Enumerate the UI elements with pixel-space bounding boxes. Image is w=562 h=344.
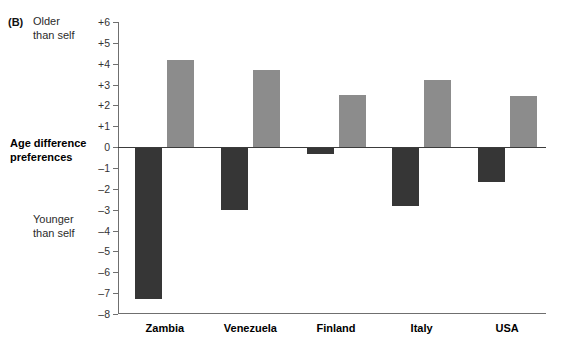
y-tick-label: +5 bbox=[98, 37, 110, 49]
bar-venezuela-older bbox=[253, 70, 280, 147]
y-tick-mark bbox=[113, 22, 118, 23]
y-tick-label: –8 bbox=[98, 308, 110, 320]
x-axis-line bbox=[118, 313, 546, 314]
y-tick-label: –7 bbox=[98, 287, 110, 299]
younger-than-self-note: Younger than self bbox=[33, 212, 75, 240]
y-tick-mark bbox=[113, 126, 118, 127]
y-tick-label: –6 bbox=[98, 266, 110, 278]
y-tick-label: +6 bbox=[98, 16, 110, 28]
category-label-finland: Finland bbox=[316, 322, 355, 334]
bar-venezuela-younger bbox=[221, 147, 248, 210]
bar-zambia-younger bbox=[135, 147, 162, 299]
category-label-zambia: Zambia bbox=[146, 322, 185, 334]
category-label-usa: USA bbox=[496, 322, 519, 334]
y-tick-mark bbox=[113, 189, 118, 190]
y-tick-label: 0 bbox=[104, 141, 110, 153]
zero-baseline bbox=[118, 147, 546, 148]
y-tick-mark bbox=[113, 231, 118, 232]
y-tick-mark bbox=[113, 105, 118, 106]
y-tick-mark bbox=[113, 293, 118, 294]
y-tick-label: –3 bbox=[98, 204, 110, 216]
y-tick-label: +3 bbox=[98, 79, 110, 91]
y-tick-label: +1 bbox=[98, 120, 110, 132]
y-axis-title: Age difference preferences bbox=[10, 136, 86, 164]
y-tick-mark bbox=[113, 64, 118, 65]
y-tick-label: –2 bbox=[98, 183, 110, 195]
bar-italy-younger bbox=[392, 147, 419, 205]
figure-panel-b: (B) Older than self Age difference prefe… bbox=[0, 0, 562, 344]
bar-usa-older bbox=[510, 96, 537, 147]
category-label-italy: Italy bbox=[411, 322, 433, 334]
y-tick-mark bbox=[113, 314, 118, 315]
y-tick-mark bbox=[113, 272, 118, 273]
panel-letter: (B) bbox=[8, 16, 23, 28]
y-tick-mark bbox=[113, 168, 118, 169]
y-tick-mark bbox=[113, 251, 118, 252]
bar-zambia-older bbox=[167, 60, 194, 148]
y-tick-label: –4 bbox=[98, 225, 110, 237]
plot-area: +6+5+4+3+2+10–1–2–3–4–5–6–7–8 ZambiaVene… bbox=[118, 22, 546, 314]
bar-finland-older bbox=[339, 95, 366, 147]
y-tick-label: –5 bbox=[98, 245, 110, 257]
y-tick-mark bbox=[113, 210, 118, 211]
y-tick-mark bbox=[113, 43, 118, 44]
y-axis-line bbox=[118, 22, 119, 314]
category-label-venezuela: Venezuela bbox=[224, 322, 277, 334]
bar-italy-older bbox=[424, 80, 451, 147]
y-tick-mark bbox=[113, 85, 118, 86]
y-tick-label: +2 bbox=[98, 99, 110, 111]
y-tick-label: +4 bbox=[98, 58, 110, 70]
bar-finland-younger bbox=[307, 147, 334, 154]
older-than-self-note: Older than self bbox=[33, 14, 75, 42]
y-tick-label: –1 bbox=[98, 162, 110, 174]
bar-usa-younger bbox=[478, 147, 505, 181]
